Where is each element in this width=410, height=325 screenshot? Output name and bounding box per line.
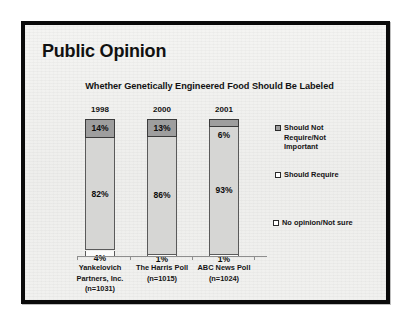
x-axis-label-line: The Harris Poll bbox=[128, 263, 196, 274]
x-axis-label-abc-news: ABC News Poll (n=1024) bbox=[190, 263, 258, 284]
bar-value-label: 4% bbox=[78, 253, 122, 263]
group-label-2000: 2000 bbox=[140, 105, 184, 114]
x-axis-label-line: Yankelovich bbox=[66, 263, 134, 274]
legend-swatch-icon bbox=[273, 220, 279, 226]
x-axis-label-line: (n=1015) bbox=[128, 274, 196, 285]
bar-value-label: 86% bbox=[153, 191, 170, 200]
slide-frame: Public Opinion Whether Genetically Engin… bbox=[21, 21, 390, 304]
bar-value-label: 93% bbox=[215, 186, 232, 195]
slide-page: Public Opinion Whether Genetically Engin… bbox=[0, 0, 410, 325]
legend-swatch-icon bbox=[275, 125, 281, 131]
bar-segment-should-not-require-2001 bbox=[209, 119, 239, 127]
x-axis-line bbox=[77, 256, 267, 257]
legend-label: Should Not Require/Not Important bbox=[284, 123, 326, 152]
bar-value-label: 82% bbox=[91, 190, 108, 199]
legend-item-no-opinion[interactable]: No opinion/Not sure bbox=[273, 218, 353, 228]
legend-label-line: Require/Not bbox=[284, 133, 326, 143]
bar-value-label: 6% bbox=[218, 131, 230, 140]
x-axis-label-harris: The Harris Poll (n=1015) bbox=[128, 263, 196, 284]
legend-item-should-require[interactable]: Should Require bbox=[275, 170, 339, 180]
x-axis-label-line: ABC News Poll bbox=[190, 263, 258, 274]
x-axis-label-line: Partners, Inc. bbox=[66, 274, 134, 285]
bar-value-label: 13% bbox=[153, 124, 170, 133]
x-axis-tick bbox=[254, 256, 255, 260]
bar-segment-should-require-1998: 82% bbox=[85, 138, 115, 250]
stacked-bar-1998: 14% 82% 4% bbox=[85, 119, 115, 256]
legend-item-should-not-require[interactable]: Should Not Require/Not Important bbox=[275, 123, 326, 152]
legend-label: No opinion/Not sure bbox=[282, 218, 353, 228]
bar-value-label: 14% bbox=[91, 124, 108, 133]
x-axis-tick bbox=[130, 256, 131, 260]
legend-swatch-icon bbox=[275, 172, 281, 178]
page-title: Public Opinion bbox=[42, 41, 166, 62]
x-axis-label-line: (n=1031) bbox=[66, 284, 134, 295]
x-axis-tick bbox=[192, 256, 193, 260]
group-label-2001: 2001 bbox=[202, 105, 246, 114]
stacked-bar-2000: 13% 86% 1% bbox=[147, 119, 177, 256]
legend-label: Should Require bbox=[284, 170, 339, 180]
legend-label-line: Important bbox=[284, 142, 326, 152]
stacked-bar-2001: 6% 93% 1% bbox=[209, 119, 239, 256]
bar-segment-should-require-2001: 6% 93% bbox=[209, 127, 239, 254]
slide-canvas: Public Opinion Whether Genetically Engin… bbox=[25, 25, 386, 300]
x-axis-label-yankelovich: Yankelovich Partners, Inc. (n=1031) bbox=[66, 263, 134, 295]
x-axis-label-line: (n=1024) bbox=[190, 274, 258, 285]
bar-segment-should-not-require-2000: 13% bbox=[147, 119, 177, 137]
legend-label-line: Should Not bbox=[284, 123, 326, 133]
x-axis-tick bbox=[77, 256, 78, 260]
chart-title: Whether Genetically Engineered Food Shou… bbox=[41, 81, 378, 91]
bar-segment-should-require-2000: 86% bbox=[147, 137, 177, 255]
chart-plot-area: 1998 2000 2001 14% 82% 4% bbox=[77, 105, 267, 257]
group-label-1998: 1998 bbox=[78, 105, 122, 114]
bar-segment-should-not-require-1998: 14% bbox=[85, 119, 115, 138]
